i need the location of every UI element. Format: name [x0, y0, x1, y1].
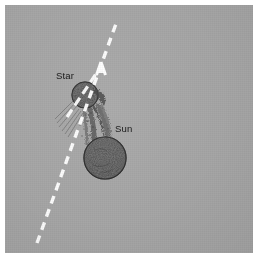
sun-body	[84, 137, 126, 179]
label-star: Star	[56, 71, 74, 81]
illustration-plate: Star Sun	[5, 5, 253, 253]
figure-root: Star Sun	[0, 0, 257, 258]
label-sun: Sun	[115, 124, 132, 134]
